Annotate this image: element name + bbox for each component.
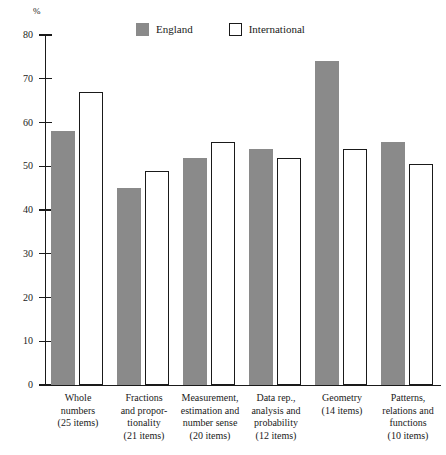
bar-england [117, 188, 141, 385]
bar-chart: % England International 8070605040302010… [0, 0, 446, 455]
legend-label-international: International [249, 23, 305, 35]
chart-legend: England International [136, 22, 305, 36]
plot-area [45, 35, 441, 385]
bar-england [381, 142, 405, 385]
legend-swatch-international-icon [229, 23, 242, 36]
x-axis-label-line: (12 items) [237, 430, 315, 443]
y-axis-tick-label: 30 [0, 249, 33, 259]
legend-item-england: England [136, 23, 193, 36]
y-axis-tick-label: 20 [0, 293, 33, 303]
bar-group [111, 35, 177, 385]
bar-group [177, 35, 243, 385]
x-axis-label-line: (10 items) [369, 430, 446, 443]
x-axis-label-line: relations and [369, 405, 446, 418]
bar-international [343, 149, 367, 385]
y-axis-tick-label: 80 [0, 30, 33, 40]
x-axis-line [45, 385, 441, 386]
bar-england [183, 158, 207, 386]
bar-international [409, 164, 433, 385]
x-axis-label-line: functions [369, 417, 446, 430]
y-axis-tick-label: 40 [0, 205, 33, 215]
x-axis-labels: Wholenumbers(25 items)Fractionsand propo… [45, 392, 441, 454]
bar-england [249, 149, 273, 385]
legend-label-england: England [156, 23, 193, 35]
x-axis-label-line: Patterns, [369, 392, 446, 405]
bar-group [375, 35, 441, 385]
y-axis-tick-label: 70 [0, 74, 33, 84]
bar-international [145, 171, 169, 385]
bar-group [243, 35, 309, 385]
bar-international [277, 158, 301, 386]
x-axis-label: Patterns,relations andfunctions(10 items… [369, 392, 446, 442]
bar-england [51, 131, 75, 385]
y-axis-unit-label: % [33, 6, 41, 16]
bar-england [315, 61, 339, 385]
y-axis-tick-label: 0 [0, 380, 33, 390]
bar-group [45, 35, 111, 385]
bar-international [211, 142, 235, 385]
bar-group [309, 35, 375, 385]
y-axis-tick-label: 60 [0, 118, 33, 128]
legend-swatch-england-icon [136, 23, 149, 36]
x-axis-label-line: probability [237, 417, 315, 430]
legend-item-international: International [229, 23, 305, 36]
bar-international [79, 92, 103, 385]
y-axis-tick-label: 50 [0, 161, 33, 171]
y-axis-tick-label: 10 [0, 336, 33, 346]
